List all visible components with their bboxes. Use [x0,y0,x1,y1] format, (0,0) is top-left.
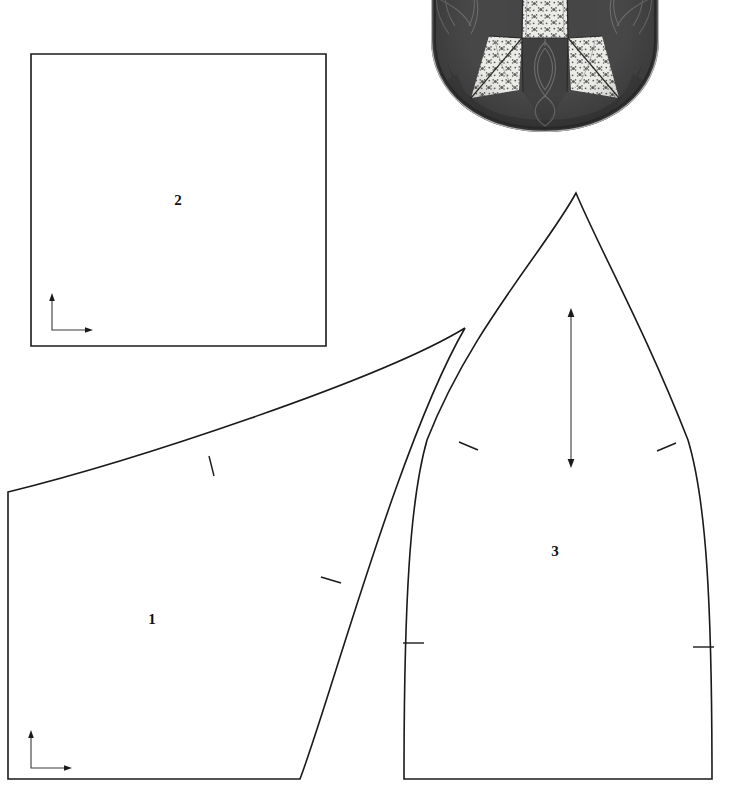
piece-1-group[interactable]: 1 [8,328,465,779]
piece-2-group[interactable]: 2 [31,54,326,346]
piece-1-notch-top [209,456,214,476]
piece-1-outline[interactable] [8,328,465,779]
piece-3-notch-left-upper [459,442,478,450]
piece-3-grain-arrow [568,308,575,468]
piece-3-group[interactable]: 3 [403,193,714,779]
quilt-photo-image [427,0,663,134]
piece-2-number-label: 2 [174,192,182,208]
piece-2-grain-marker [49,293,93,333]
piece-1-grain-marker [28,730,72,771]
quilt-round-body [427,0,663,134]
piece-1-notch-right [321,577,341,583]
quilt-vignette [427,0,663,134]
piece-3-number-label: 3 [551,543,559,559]
piece-3-notch-right-upper [657,443,676,451]
quilt-photo [427,0,663,134]
piece-1-number-label: 1 [148,611,156,627]
pattern-sheet-page: 2 1 [0,0,731,806]
piece-3-outline[interactable] [404,193,712,779]
